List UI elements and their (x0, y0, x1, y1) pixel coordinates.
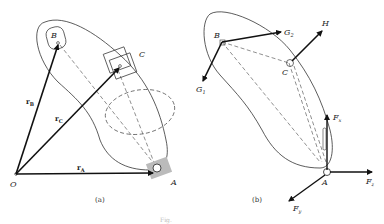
label-a-b: A (321, 178, 328, 187)
caption-a: (a) (95, 196, 105, 204)
panel-a: B C A O rB rC rA (a) (10, 20, 178, 204)
label-r-b: rB (26, 97, 34, 107)
label-fy: Fy (292, 204, 302, 215)
panel-b: B C A G1 G2 H Fx Fz Fy (b) (196, 12, 375, 215)
label-c-a: C (139, 50, 145, 59)
label-origin: O (10, 180, 17, 189)
ground-support-a (146, 157, 172, 180)
diagram-canvas: B C A O rB rC rA (a) B (0, 0, 384, 224)
vector-r-b (16, 45, 58, 174)
label-b-b: B (213, 31, 220, 40)
label-a-a: A (170, 178, 177, 187)
label-fx: Fx (332, 113, 342, 123)
caption-b: (b) (252, 196, 262, 204)
vector-r-a (16, 173, 153, 174)
label-b-a: B (50, 31, 57, 40)
force-fy (289, 175, 325, 201)
label-fz: Fz (365, 177, 375, 187)
vector-r-c (16, 68, 119, 174)
label-g1: G1 (196, 85, 206, 95)
label-c-b: C (282, 68, 288, 77)
label-g2: G2 (284, 28, 294, 38)
foot-outline-b (204, 12, 332, 168)
label-r-c: rC (55, 114, 63, 124)
label-r-a: rA (77, 163, 85, 173)
foot-outline-a (37, 20, 168, 170)
label-h: H (321, 19, 330, 28)
figure-label: Fig. (160, 216, 172, 224)
force-g2 (222, 32, 281, 42)
force-h (292, 31, 322, 61)
